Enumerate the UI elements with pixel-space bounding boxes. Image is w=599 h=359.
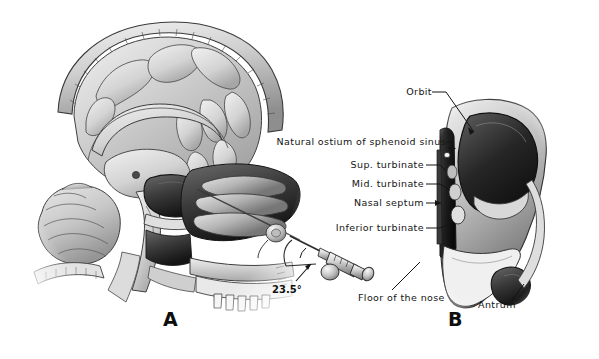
syringe-bulb — [321, 264, 339, 280]
label-sup-turbinate: Sup. turbinate — [351, 160, 424, 170]
label-antrum: Antrum — [478, 300, 516, 310]
middle-turbinate-b — [449, 184, 461, 200]
label-injection-angle: 23.5° — [272, 284, 302, 295]
superior-turbinate-b — [447, 165, 457, 179]
sphenoid-ostium-opening — [444, 152, 450, 157]
inferior-turbinate-b — [451, 206, 465, 224]
label-inferior-turbinate: Inferior turbinate — [336, 223, 424, 233]
label-mid-turbinate: Mid. turbinate — [352, 179, 424, 189]
panel-letter-a: A — [163, 310, 178, 329]
label-floor-of-the-nose: Floor of the nose — [358, 293, 445, 303]
label-orbit: Orbit — [406, 87, 432, 97]
label-natural-ostium-of-sphenoid-sinus: Natural ostium of sphenoid sinus — [277, 137, 446, 147]
instrument-wheel-hub — [272, 229, 281, 237]
massa-intermedia — [132, 171, 139, 178]
panel-letter-b: B — [448, 310, 462, 329]
label-nasal-septum: Nasal septum — [354, 198, 424, 208]
panel-b-illustration — [437, 99, 546, 307]
nasal-septum-edge — [437, 150, 442, 244]
